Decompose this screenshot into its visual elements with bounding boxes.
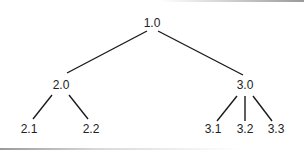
node-2.1: 2.1	[21, 122, 38, 136]
node-3.3: 3.3	[268, 122, 285, 136]
node-2.2: 2.2	[83, 122, 100, 136]
edge-3.0-3.3	[253, 96, 272, 121]
node-3.2: 3.2	[237, 122, 254, 136]
edge-3.0-3.1	[217, 96, 237, 121]
edge-1.0-2.0	[67, 31, 147, 73]
edges	[33, 31, 272, 121]
node-3.0: 3.0	[237, 78, 254, 92]
node-2.0: 2.0	[53, 78, 70, 92]
edge-2.0-2.2	[69, 95, 88, 119]
node-1.0: 1.0	[144, 16, 161, 30]
edge-2.0-2.1	[33, 95, 52, 119]
edge-1.0-3.0	[158, 31, 243, 75]
node-3.1: 3.1	[205, 122, 222, 136]
tree-diagram: 1.0 2.0 3.0 2.1 2.2 3.1 3.2 3.3	[0, 0, 304, 150]
